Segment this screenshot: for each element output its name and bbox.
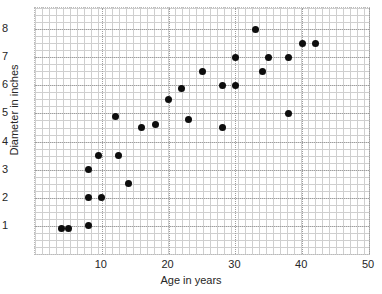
data-point [98, 194, 105, 201]
y-tick-label: 1 [2, 219, 8, 231]
gridline-horizontal [35, 57, 369, 58]
data-point [85, 222, 92, 229]
x-axis-title: Age in years [0, 274, 382, 286]
data-point [219, 82, 226, 89]
x-tick-label: 30 [228, 258, 240, 270]
data-point [285, 54, 292, 61]
data-point [125, 180, 132, 187]
x-tick-label: 50 [362, 258, 374, 270]
gridline-vertical [102, 8, 103, 254]
plot-area [34, 7, 370, 255]
gridline-horizontal [35, 113, 369, 114]
data-point [138, 124, 145, 131]
y-axis-title: Diameter in inches [8, 40, 20, 180]
data-point [312, 40, 319, 47]
data-point [232, 82, 239, 89]
x-tick-label: 40 [295, 258, 307, 270]
data-point [259, 68, 266, 75]
gridline-horizontal [35, 29, 369, 30]
y-tick-label: 8 [2, 22, 8, 34]
gridline-vertical [369, 8, 370, 254]
gridline-vertical [235, 8, 236, 254]
x-tick-label: 10 [95, 258, 107, 270]
data-point [265, 54, 272, 61]
data-point [219, 124, 226, 131]
x-tick-label: 20 [161, 258, 173, 270]
data-point [85, 194, 92, 201]
gridline-vertical [169, 8, 170, 254]
data-point [95, 152, 102, 159]
data-point [112, 113, 119, 120]
data-point [185, 116, 192, 123]
data-point [232, 54, 239, 61]
data-point [115, 152, 122, 159]
data-point [152, 121, 159, 128]
y-tick-label: 2 [2, 191, 8, 203]
data-point [178, 85, 185, 92]
data-point [252, 26, 259, 33]
gridline-horizontal [35, 85, 369, 86]
data-point [285, 110, 292, 117]
scatter-chart: 1020304050 12345678 Age in years Diamete… [0, 0, 382, 294]
data-point [199, 68, 206, 75]
data-point [165, 96, 172, 103]
data-point [65, 225, 72, 232]
data-point [299, 40, 306, 47]
data-point [85, 166, 92, 173]
gridline-horizontal [35, 142, 369, 143]
